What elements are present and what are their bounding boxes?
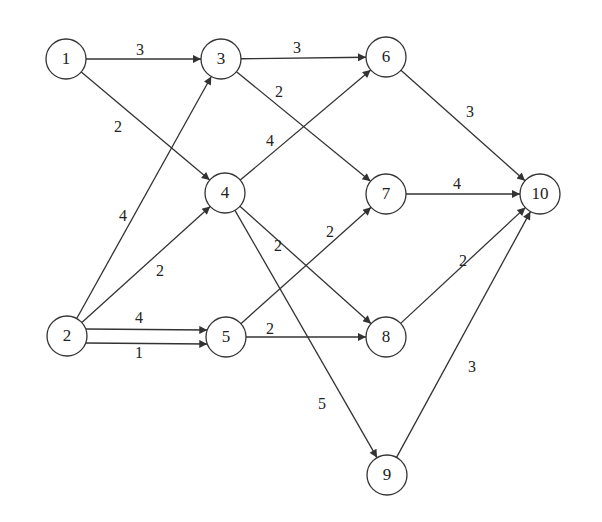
- edge-weight-label: 4: [135, 309, 143, 326]
- edges-layer: 32424132425223423: [77, 39, 531, 458]
- edge-arrow: [240, 70, 370, 180]
- edge-weight-label: 3: [136, 41, 144, 58]
- edge-arrow: [81, 72, 209, 180]
- edge-arrow: [86, 329, 208, 330]
- node-label: 3: [217, 49, 226, 68]
- edge-2-to-3: 4: [77, 76, 212, 318]
- edge-weight-label: 2: [114, 118, 122, 135]
- edge-1-to-3: 3: [86, 41, 201, 59]
- node-3: 3: [201, 39, 241, 79]
- node-label: 9: [383, 465, 392, 484]
- edge-7-to-10: 4: [406, 175, 520, 194]
- node-label: 8: [382, 327, 391, 346]
- edge-weight-label: 4: [266, 132, 274, 149]
- node-9: 9: [367, 455, 407, 495]
- edge-weight-label: 4: [119, 207, 127, 224]
- node-label: 5: [222, 327, 231, 346]
- edge-1-to-4: 2: [81, 72, 209, 180]
- node-7: 7: [366, 174, 406, 214]
- node-label: 7: [382, 184, 391, 203]
- edge-weight-label: 3: [466, 103, 474, 120]
- edge-weight-label: 5: [318, 395, 326, 412]
- node-2: 2: [47, 316, 87, 356]
- edge-8-to-10: 2: [401, 208, 526, 324]
- edge-weight-label: 2: [275, 83, 283, 100]
- nodes-layer: 12345678910: [46, 37, 560, 495]
- node-5: 5: [206, 317, 246, 357]
- node-label: 10: [532, 184, 549, 203]
- node-label: 4: [221, 183, 230, 202]
- edge-arrow: [235, 210, 377, 457]
- edge-weight-label: 2: [266, 320, 274, 337]
- node-6: 6: [366, 37, 406, 77]
- node-4: 4: [205, 173, 245, 213]
- edge-weight-label: 2: [459, 252, 467, 269]
- node-8: 8: [366, 317, 406, 357]
- edge-9-to-10: 3: [397, 212, 531, 458]
- node-label: 1: [62, 49, 71, 68]
- edge-arrow: [86, 343, 208, 344]
- edge-weight-label: 2: [274, 237, 282, 254]
- edge-weight-label: 3: [468, 358, 476, 375]
- edge-weight-label: 4: [453, 175, 461, 192]
- edge-arrow: [240, 206, 371, 323]
- node-label: 2: [63, 326, 72, 345]
- edge-weight-label: 2: [156, 262, 164, 279]
- edge-arrow: [77, 76, 212, 318]
- edge-arrow: [82, 206, 210, 322]
- edge-2-to-5: 1: [86, 343, 208, 361]
- edge-arrow: [401, 70, 525, 180]
- network-diagram: 32424132425223423 12345678910: [0, 0, 602, 522]
- edge-weight-label: 2: [326, 223, 334, 240]
- edge-weight-label: 3: [293, 39, 301, 56]
- edge-weight-label: 1: [135, 344, 143, 361]
- edge-4-to-8: 2: [240, 206, 371, 323]
- edge-arrow: [397, 212, 531, 458]
- edge-arrow: [241, 57, 366, 59]
- node-1: 1: [46, 39, 86, 79]
- edge-3-to-6: 3: [241, 39, 366, 59]
- edge-6-to-10: 3: [401, 70, 525, 180]
- edge-4-to-9: 5: [235, 210, 377, 457]
- edge-2-to-4: 2: [82, 206, 210, 322]
- node-label: 6: [382, 47, 391, 66]
- edge-2-to-5: 4: [86, 309, 208, 330]
- node-10: 10: [520, 174, 560, 214]
- edge-4-to-6: 4: [240, 70, 370, 180]
